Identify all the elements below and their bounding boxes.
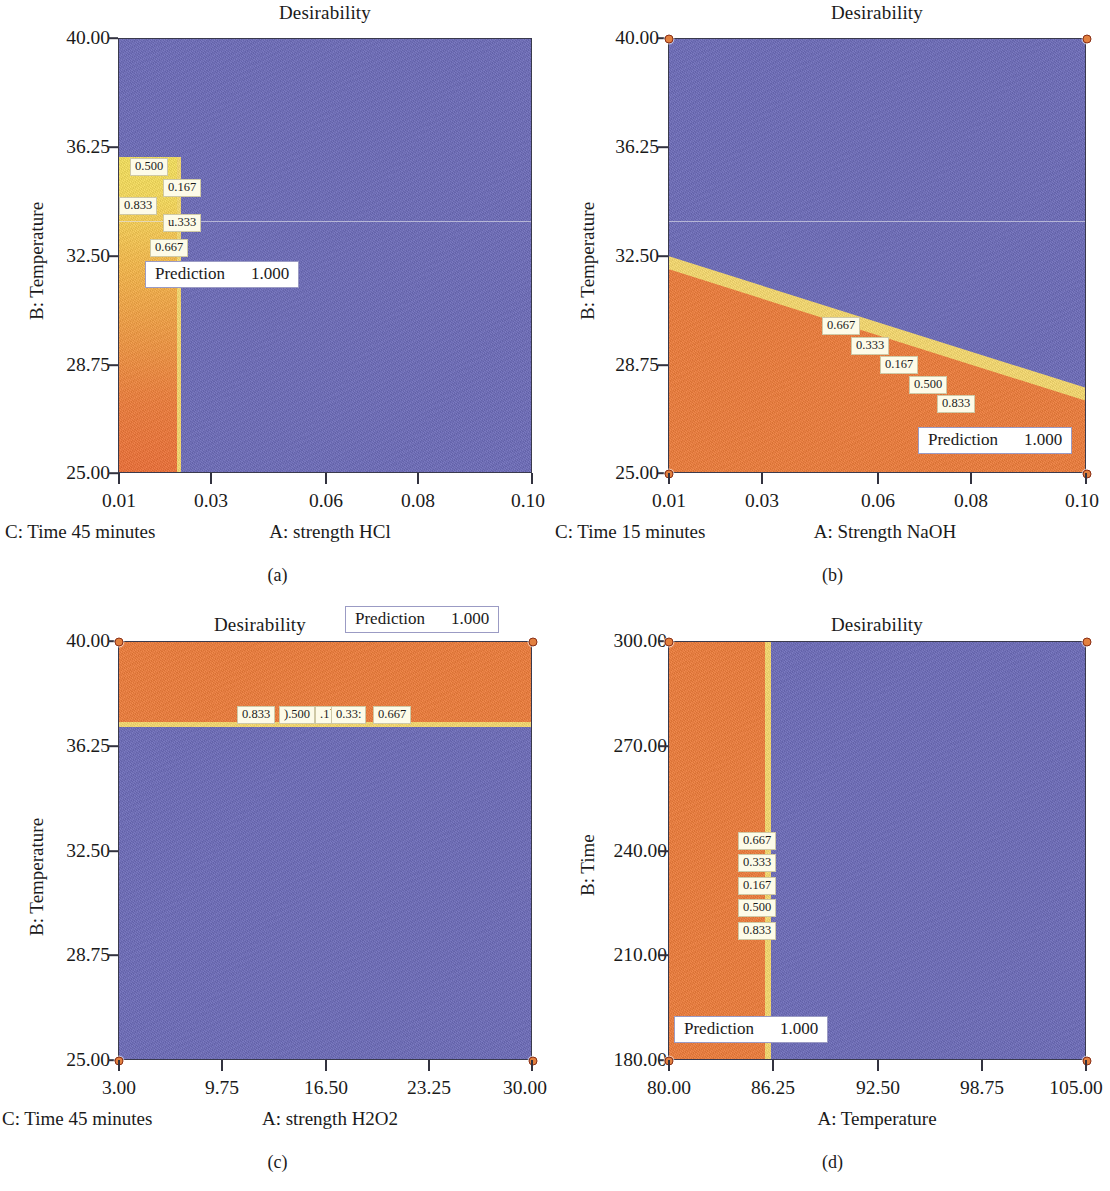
prediction-box-d: Prediction 1.000 [674,1016,828,1043]
y-axis-label-c: B: Temperature [26,818,48,936]
contour-label-d-1: 0.333 [738,854,776,872]
contour-label-d-2: 0.167 [738,877,776,895]
y-tick-c-40: 40.00 [8,630,110,652]
contour-label-b-1: 0.333 [851,337,889,355]
contour-label-d-0: 0.667 [738,832,776,850]
y-tick-b-28: 28.75 [557,354,659,376]
x-tick-c-0: 3.00 [102,1077,136,1099]
x-axis-label-d: A: Temperature [817,1108,936,1130]
contour-label-c-0: 0.833 [237,706,275,724]
x-axis-label-c: A: strength H2O2 [262,1108,398,1130]
plot-area-b: 0.667 0.333 0.167 0.500 0.833 Prediction… [668,38,1086,473]
contour-label-a-2: 0.833 [119,197,157,215]
contour-label-c-4: 0.667 [373,706,411,724]
corner-marker-b-bottom-right [1083,470,1092,479]
panel-c: Desirability B: Temperature 40.00 36.25 … [0,596,555,1191]
contour-edge-a [177,157,181,472]
y-tick-mark-b-28 [658,364,668,366]
y-tick-d-180: 180.00 [555,1049,667,1071]
y-tick-c-32: 32.50 [8,840,110,862]
x-tick-mark-c-3 [428,1060,430,1071]
x-tick-mark-a-0 [118,473,120,484]
y-tick-mark-d-270 [658,745,668,747]
x-tick-c-2: 16.50 [304,1077,348,1099]
plot-title-b: Desirability [668,2,1086,24]
x-tick-mark-d-2 [877,1060,879,1071]
y-tick-mark-d-210 [658,954,668,956]
corner-marker-d-top-right [1083,638,1092,647]
x-tick-mark-d-4 [1085,1060,1087,1071]
x-tick-d-1: 86.25 [751,1077,795,1099]
y-tick-mark-a-28 [108,364,118,366]
plot-area-a: 0.500 0.167 0.833 u.333 0.667 Prediction… [118,38,532,473]
contour-label-d-3: 0.500 [738,899,776,917]
x-tick-a-3: 0.08 [401,490,435,512]
corner-marker-b-top-left [665,35,674,44]
contour-label-a-3: u.333 [163,214,201,232]
corner-marker-c-bottom-right [529,1057,538,1066]
x-tick-c-4: 30.00 [503,1077,547,1099]
y-tick-c-25: 25.00 [8,1049,110,1071]
y-tick-mark-b-32 [658,255,668,257]
plot-title-d: Desirability [668,614,1086,636]
corner-marker-d-bottom-right [1083,1057,1092,1066]
prediction-value-d: 1.000 [780,1019,818,1039]
y-tick-c-28: 28.75 [8,944,110,966]
prediction-box-a: Prediction 1.000 [145,261,299,288]
x-tick-mark-d-1 [772,1060,774,1071]
x-tick-mark-b-2 [877,473,879,484]
x-tick-mark-d-3 [981,1060,983,1071]
contour-label-a-1: 0.167 [163,179,201,197]
contour-label-c-1: ).500 [279,706,315,724]
panel-caption-c: (c) [0,1152,555,1173]
corner-note-b: C: Time 15 minutes [555,521,705,543]
prediction-label-a: Prediction [155,264,225,284]
x-tick-d-2: 92.50 [856,1077,900,1099]
contour-edge-d [765,642,771,1059]
y-tick-c-36: 36.25 [8,735,110,757]
x-tick-a-4: 0.10 [511,490,545,512]
x-tick-mark-a-4 [531,473,533,484]
x-tick-a-1: 0.03 [194,490,228,512]
prediction-label-b: Prediction [928,430,998,450]
y-tick-mark-c-36 [108,745,118,747]
contour-label-b-4: 0.833 [937,395,975,413]
x-tick-mark-b-1 [761,473,763,484]
corner-note-c: C: Time 45 minutes [2,1108,152,1130]
x-tick-mark-c-0 [118,1060,120,1071]
contour-label-b-0: 0.667 [822,317,860,335]
prediction-value-a: 1.000 [251,264,289,284]
y-tick-d-300: 300.00 [555,630,667,652]
x-tick-a-0: 0.01 [102,490,136,512]
x-axis-label-b: A: Strength NaOH [814,521,956,543]
x-tick-b-2: 0.06 [861,490,895,512]
y-tick-mark-b-36 [658,146,668,148]
contour-label-b-2: 0.167 [880,356,918,374]
x-tick-mark-c-2 [325,1060,327,1071]
x-tick-b-3: 0.08 [954,490,988,512]
contour-label-b-3: 0.500 [909,376,947,394]
contour-label-a-4: 0.667 [150,239,188,257]
y-tick-a-36: 36.25 [8,136,110,158]
x-tick-b-4: 0.10 [1065,490,1099,512]
x-tick-mark-d-0 [668,1060,670,1071]
x-tick-d-4: 105.00 [1049,1077,1103,1099]
y-tick-b-40: 40.00 [557,27,659,49]
y-tick-mark-c-32 [108,850,118,852]
x-tick-b-0: 0.01 [652,490,686,512]
corner-marker-b-top-right [1083,35,1092,44]
x-tick-mark-b-0 [668,473,670,484]
x-tick-d-3: 98.75 [960,1077,1004,1099]
plot-title-a: Desirability [118,2,532,24]
x-tick-mark-b-3 [970,473,972,484]
desirability-region-b [669,39,1085,472]
corner-marker-d-top-left [665,638,674,647]
desirability-region-d [669,642,767,1059]
panel-caption-a: (a) [0,565,555,586]
prediction-label-d: Prediction [684,1019,754,1039]
y-tick-d-240: 240.00 [555,840,667,862]
prediction-value-c: 1.000 [451,609,489,629]
contour-label-d-4: 0.833 [738,922,776,940]
x-tick-d-0: 80.00 [647,1077,691,1099]
corner-marker-c-top-left [115,638,124,647]
